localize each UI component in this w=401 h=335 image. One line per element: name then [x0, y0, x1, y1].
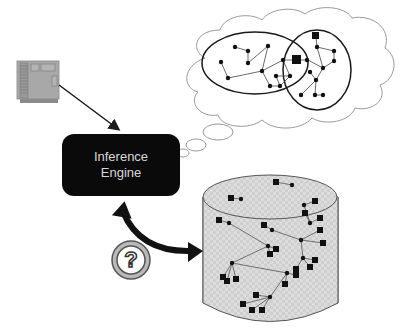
cloud-shared-concept-node [292, 55, 301, 64]
knowledge-base-cylinder[interactable] [203, 175, 338, 322]
diagram-canvas [0, 0, 401, 335]
thought-bubble-medium [186, 139, 206, 151]
inference-engine-box[interactable] [62, 134, 180, 196]
thought-cloud [177, 8, 394, 157]
thought-bubble-large [203, 124, 233, 140]
input-arrow [59, 85, 118, 129]
question-mark-glyph: ? [120, 246, 142, 274]
circuit-board-icon [17, 61, 59, 103]
